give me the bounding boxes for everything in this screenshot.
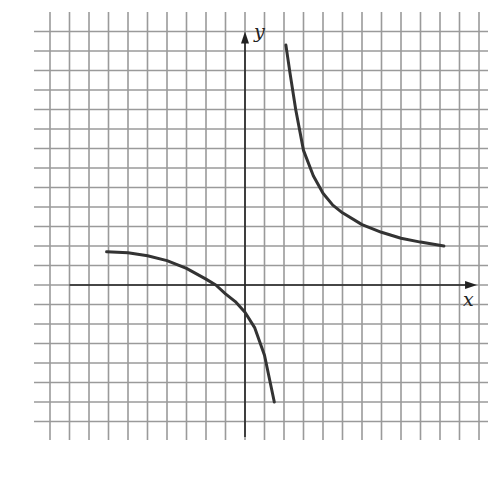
function-curves [107, 45, 444, 402]
hyperbola-graph [0, 0, 504, 478]
y-axis-arrow-icon [241, 32, 249, 44]
left-branch-curve [107, 252, 275, 402]
x-axis-label: x [463, 290, 474, 309]
grid-lines [34, 12, 488, 440]
y-axis-label: y [254, 22, 265, 41]
